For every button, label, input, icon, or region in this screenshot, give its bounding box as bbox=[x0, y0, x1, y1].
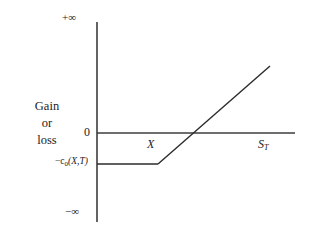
payoff-slope-segment bbox=[158, 66, 270, 164]
y-axis-name-line-1: Gain bbox=[16, 98, 78, 115]
x-axis-subscript: T bbox=[264, 143, 268, 152]
y-axis-name-line-2: or bbox=[16, 115, 78, 132]
premium-arguments: (X,T) bbox=[68, 156, 88, 166]
y-axis-top-limit-label: +∞ bbox=[62, 12, 76, 23]
premium-prefix: −c bbox=[55, 156, 65, 166]
y-axis-name-line-3: loss bbox=[16, 132, 78, 149]
payoff-diagram-figure: +∞ −∞ 0 X −c0(X,T) ST Gain or loss bbox=[0, 0, 309, 237]
x-axis-name-label: ST bbox=[258, 138, 268, 152]
option-premium-label: −c0(X,T) bbox=[55, 157, 88, 168]
strike-price-label: X bbox=[147, 138, 154, 150]
y-axis-name-label: Gain or loss bbox=[16, 98, 78, 149]
y-axis-bottom-limit-label: −∞ bbox=[65, 206, 79, 217]
origin-tick-label: 0 bbox=[84, 126, 90, 138]
